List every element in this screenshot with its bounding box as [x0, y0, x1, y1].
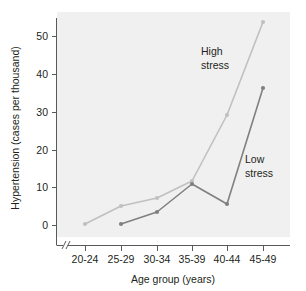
y-tick-label-30: 30 — [36, 106, 48, 118]
data-point — [155, 210, 159, 214]
y-tick-label-0: 0 — [42, 219, 48, 231]
y-axis-title: Hypertension (cases per thousand) — [9, 46, 21, 209]
data-point — [261, 20, 265, 24]
data-point — [119, 222, 123, 226]
y-tick-label-10: 10 — [36, 181, 48, 193]
y-tick-label-20: 20 — [36, 144, 48, 156]
x-tick-label-35-39: 35-39 — [179, 253, 206, 265]
y-tick-label-40: 40 — [36, 68, 48, 80]
data-point — [119, 204, 123, 208]
x-tick-label-45-49: 45-49 — [250, 253, 277, 265]
hypertension-line-chart: 0 10 20 30 40 50 20-24 25-29 30-34 35-39… — [0, 0, 306, 291]
series-label-low-stress-line2: stress — [245, 167, 273, 179]
x-tick-label-30-34: 30-34 — [144, 253, 171, 265]
x-tick-label-25-29: 25-29 — [108, 253, 135, 265]
data-point — [83, 222, 87, 226]
data-point — [225, 202, 229, 206]
data-point — [225, 113, 229, 117]
data-point — [261, 86, 265, 90]
series-label-high-stress-line1: High — [201, 45, 223, 57]
data-point — [190, 182, 194, 186]
series-label-low-stress-line1: Low — [245, 153, 265, 165]
x-axis-ticks — [86, 246, 264, 252]
data-point — [155, 196, 159, 200]
axis-break-icon — [57, 241, 71, 249]
x-tick-label-20-24: 20-24 — [72, 253, 99, 265]
chart-figure: 0 10 20 30 40 50 20-24 25-29 30-34 35-39… — [0, 0, 306, 291]
x-tick-label-40-44: 40-44 — [214, 253, 241, 265]
plot-background — [57, 12, 290, 237]
y-tick-label-50: 50 — [36, 30, 48, 42]
x-axis-title: Age group (years) — [131, 273, 215, 285]
series-label-high-stress-line2: stress — [201, 59, 229, 71]
